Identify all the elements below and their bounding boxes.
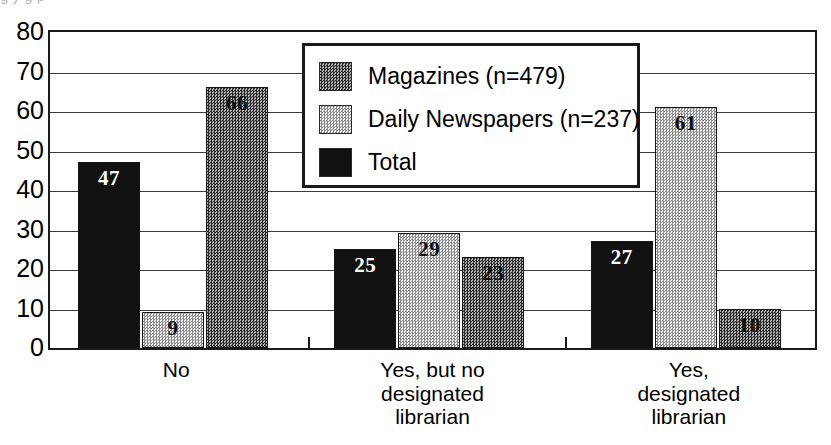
x-axis-label-line: librarian — [304, 405, 560, 429]
y-axis-tick-label: 50 — [0, 138, 44, 163]
y-axis-tick-label: 10 — [0, 296, 44, 321]
y-axis-tick-label: 30 — [0, 217, 44, 242]
x-axis-tick — [308, 337, 310, 348]
cropped-caption-remnant: g y g p — [0, 0, 831, 9]
legend-item-mag: Magazines (n=479) — [319, 55, 637, 98]
y-axis-tick-label: 40 — [0, 177, 44, 202]
bar-chart: g y g p 01020304050607080 47966252923276… — [0, 0, 831, 445]
legend-label: Daily Newspapers (n=237) — [368, 108, 640, 131]
x-axis-label-line: No — [48, 358, 304, 382]
bar-value-label: 66 — [207, 93, 267, 114]
bar-value-label: 29 — [399, 239, 459, 260]
bar-value-label: 23 — [463, 263, 523, 284]
legend-item-daily: Daily Newspapers (n=237) — [319, 98, 637, 141]
legend-swatch-daily — [319, 105, 352, 134]
bar-value-label: 47 — [79, 168, 139, 189]
legend-label: Magazines (n=479) — [368, 65, 566, 88]
legend-swatch-total — [319, 148, 352, 177]
y-axis-tick-label: 0 — [0, 335, 44, 360]
y-axis: 01020304050607080 — [0, 0, 44, 445]
y-axis-tick-label: 70 — [0, 59, 44, 84]
bar-mag-group-1: 23 — [462, 257, 524, 348]
bar-value-label: 10 — [720, 315, 780, 336]
x-axis-label-line: librarian — [561, 405, 817, 429]
x-axis-tick — [565, 337, 567, 348]
bar-value-label: 25 — [335, 255, 395, 276]
y-axis-tick-label: 80 — [0, 19, 44, 44]
x-axis-label-line: Yes, — [561, 358, 817, 382]
x-axis-label-1: Yes, but nodesignatedlibrarian — [304, 358, 560, 429]
bar-value-label: 27 — [592, 247, 652, 268]
x-axis-label-line: Yes, but no — [304, 358, 560, 382]
x-axis-label-0: No — [48, 358, 304, 382]
legend-swatch-mag — [319, 62, 352, 91]
legend-item-total: Total — [319, 141, 637, 184]
bar-daily-group-0: 9 — [142, 312, 204, 348]
bar-value-label: 61 — [656, 113, 716, 134]
y-axis-tick-label: 20 — [0, 256, 44, 281]
bar-mag-group-2: 10 — [719, 309, 781, 349]
y-axis-tick-label: 60 — [0, 98, 44, 123]
x-axis-label-line: designated — [304, 382, 560, 406]
bar-value-label: 9 — [143, 318, 203, 339]
bar-daily-group-1: 29 — [398, 233, 460, 348]
chart-legend: Magazines (n=479)Daily Newspapers (n=237… — [302, 43, 640, 188]
legend-label: Total — [368, 151, 417, 174]
x-axis-label-line: designated — [561, 382, 817, 406]
bar-total-group-2: 27 — [591, 241, 653, 348]
bar-mag-group-0: 66 — [206, 87, 268, 348]
bar-total-group-1: 25 — [334, 249, 396, 348]
bar-daily-group-2: 61 — [655, 107, 717, 348]
x-axis-label-2: Yes,designatedlibrarian — [561, 358, 817, 429]
bar-total-group-0: 47 — [78, 162, 140, 348]
